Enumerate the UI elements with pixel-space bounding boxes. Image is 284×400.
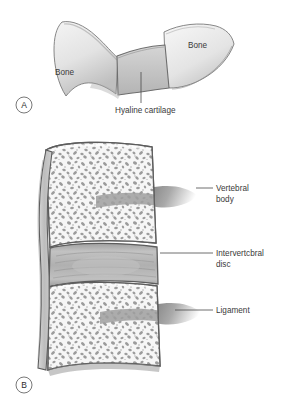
bone-left-shape [54,22,118,96]
hyaline-cartilage-shape [117,45,169,95]
spongy-bone-lower [46,278,168,376]
figure-canvas: Bone Bone Hyaline cartilage A [0,0,284,400]
label-intervertebral-disc: Intervertcbral disc [216,249,266,269]
vertebral-process-lower [154,303,202,324]
label-hyaline-cartilage: Hyaline cartilage [115,106,176,115]
label-bone-left: Bone [55,68,75,77]
vertebral-process-upper [150,186,198,207]
panel-a-illustration: Bone Bone Hyaline cartilage A [16,22,234,115]
label-vertebral-body: Vertebral body [216,184,251,204]
bone-right-shape [164,24,234,88]
panel-b-letter: B [21,380,27,390]
spongy-bone-upper [44,138,164,252]
anatomy-figure: Bone Bone Hyaline cartilage A [0,0,284,400]
panel-b-illustration: Vertebral body Intervertcbral disc Ligam… [16,138,266,393]
label-bone-right: Bone [188,41,208,50]
panel-a-letter: A [21,100,27,110]
label-ligament: Ligament [216,306,250,315]
